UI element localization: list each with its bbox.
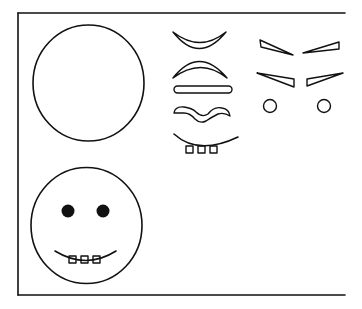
left-eye-dot — [62, 205, 75, 218]
mouth-toothy-grin — [174, 134, 238, 153]
eyebrows-angled — [257, 73, 343, 87]
mouth-smile-crescent — [173, 32, 226, 49]
eyebrow-shapes — [257, 40, 343, 87]
mouth-neutral-bar — [174, 86, 232, 93]
mouth-wavy — [174, 107, 230, 122]
eyes-open — [264, 100, 331, 113]
frame — [18, 13, 345, 295]
right-eye-dot — [97, 205, 110, 218]
face-construction-diagram: Face construction kit: blank face outlin… — [0, 0, 362, 309]
mouth-shapes — [173, 32, 238, 153]
eyebrows-raised — [260, 40, 339, 55]
blank-face-outline — [33, 25, 144, 141]
mouth-frown-crescent — [173, 62, 227, 79]
assembled-face — [31, 168, 142, 284]
